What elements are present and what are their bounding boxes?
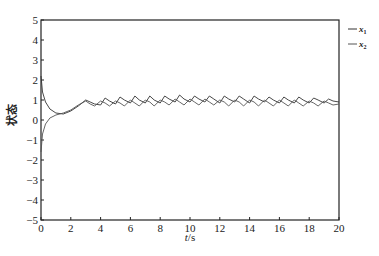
x-tick-label: 20 (334, 222, 346, 234)
series-line-x1 (41, 76, 339, 114)
y-tick-label: −1 (26, 134, 38, 146)
y-tick-label: 3 (33, 54, 39, 66)
plot-area (41, 20, 339, 220)
legend-label-x1: x1 (358, 24, 367, 35)
x-tick-label: 12 (214, 222, 225, 234)
x-tick-label: 0 (38, 222, 44, 234)
x-tick-label: 4 (98, 222, 104, 234)
x-tick-label: 16 (274, 222, 286, 234)
x-tick-label: 8 (157, 222, 163, 234)
y-tick-label: 4 (33, 34, 39, 46)
y-tick-label: −3 (26, 174, 38, 186)
x-tick-label: 18 (304, 222, 316, 234)
x-tick-label: 14 (244, 222, 256, 234)
y-tick-label: −5 (26, 214, 38, 226)
legend: x1x2 (348, 24, 367, 50)
y-axis-label: 状态 (5, 104, 18, 126)
y-tick-label: 2 (33, 74, 39, 86)
y-tick-label: 0 (33, 114, 39, 126)
line-chart: 543210−1−2−3−4−5 02468101214161820 状态 t/… (0, 0, 379, 256)
series-line-x2 (41, 99, 339, 152)
y-tick-label: −2 (26, 154, 38, 166)
series-layer (41, 76, 339, 152)
legend-label-x2: x2 (358, 39, 367, 50)
x-tick-label: 6 (128, 222, 134, 234)
x-tick-label: 2 (68, 222, 74, 234)
x-axis-label: t/s (185, 231, 195, 243)
y-tick-label: 1 (33, 94, 39, 106)
y-tick-label: 5 (33, 14, 39, 26)
y-tick-label: −4 (26, 194, 38, 206)
